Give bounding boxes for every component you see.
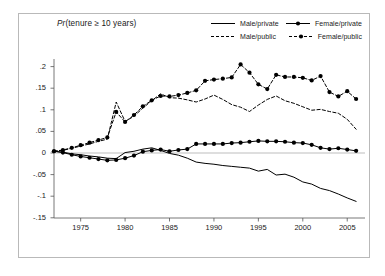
- series-marker-female_public: [87, 141, 91, 145]
- x-tick-label: 1975: [66, 223, 96, 232]
- series-marker-female_public: [345, 89, 349, 93]
- series-marker-female_private: [247, 140, 251, 144]
- series-marker-female_public: [167, 94, 171, 98]
- series-marker-female_private: [185, 147, 189, 151]
- series-marker-female_public: [212, 77, 216, 81]
- chart-figure: Pr(tenure ≥ 10 years) Male/private Femal…: [0, 0, 385, 276]
- x-tick-label: 1985: [155, 223, 185, 232]
- series-marker-female_private: [203, 142, 207, 146]
- series-marker-female_public: [247, 71, 251, 75]
- y-tick-label: .05: [24, 126, 46, 135]
- series-marker-female_private: [87, 156, 91, 160]
- series-marker-female_private: [70, 153, 74, 157]
- series-marker-female_private: [354, 149, 358, 153]
- series-marker-female_public: [123, 120, 127, 124]
- series-marker-female_public: [141, 104, 145, 108]
- series-marker-female_private: [212, 142, 216, 146]
- series-marker-female_public: [185, 91, 189, 95]
- series-marker-female_private: [283, 140, 287, 144]
- series-marker-female_public: [265, 87, 269, 91]
- series-marker-female_public: [70, 146, 74, 150]
- series-marker-female_private: [159, 147, 163, 151]
- series-marker-female_public: [159, 94, 163, 98]
- series-marker-female_private: [167, 149, 171, 153]
- series-marker-female_private: [221, 142, 225, 146]
- series-marker-female_private: [105, 158, 109, 162]
- y-tick-label: -.15: [24, 213, 46, 222]
- series-marker-female_public: [336, 94, 340, 98]
- series-marker-female_public: [301, 76, 305, 80]
- series-marker-female_private: [301, 141, 305, 145]
- series-marker-female_private: [132, 153, 136, 157]
- series-marker-female_public: [274, 73, 278, 77]
- series-marker-female_private: [230, 141, 234, 145]
- series-marker-female_public: [61, 148, 65, 152]
- series-marker-female_public: [256, 82, 260, 86]
- series-marker-female_private: [114, 158, 118, 162]
- series-marker-female_private: [123, 156, 127, 160]
- series-marker-female_private: [79, 154, 83, 158]
- series-marker-female_private: [318, 146, 322, 150]
- series-marker-female_private: [176, 148, 180, 152]
- series-marker-female_public: [105, 135, 109, 139]
- series-marker-female_private: [265, 139, 269, 143]
- series-marker-female_public: [354, 97, 358, 101]
- y-tick-label: -.1: [24, 191, 46, 200]
- series-marker-female_private: [239, 141, 243, 145]
- y-tick-label: -.05: [24, 170, 46, 179]
- series-marker-female_public: [96, 138, 100, 142]
- series-marker-female_public: [221, 77, 225, 81]
- y-tick-label: .1: [24, 105, 46, 114]
- x-tick-label: 1990: [199, 223, 229, 232]
- series-marker-female_private: [336, 146, 340, 150]
- x-tick-label: 2000: [288, 223, 318, 232]
- series-marker-female_private: [292, 141, 296, 145]
- series-marker-female_private: [150, 148, 154, 152]
- y-tick-label: .15: [24, 83, 46, 92]
- series-marker-female_private: [256, 139, 260, 143]
- series-marker-female_private: [310, 143, 314, 147]
- series-marker-female_public: [150, 98, 154, 102]
- y-tick-label: .2: [24, 62, 46, 71]
- x-tick-label: 1995: [243, 223, 273, 232]
- series-marker-female_public: [52, 149, 56, 153]
- series-marker-female_public: [194, 88, 198, 92]
- y-tick-label: 0: [24, 148, 46, 157]
- series-marker-female_public: [283, 75, 287, 79]
- series-marker-female_public: [203, 79, 207, 83]
- x-tick-label: 2005: [332, 223, 362, 232]
- plot-area: [0, 0, 385, 276]
- series-marker-female_private: [141, 150, 145, 154]
- series-marker-female_private: [274, 139, 278, 143]
- series-marker-female_private: [96, 157, 100, 161]
- series-marker-female_public: [239, 62, 243, 66]
- series-marker-female_private: [194, 142, 198, 146]
- series-marker-female_public: [292, 75, 296, 79]
- series-marker-female_public: [310, 78, 314, 82]
- series-marker-female_public: [132, 113, 136, 117]
- series-marker-female_public: [230, 75, 234, 79]
- series-marker-female_public: [79, 143, 83, 147]
- series-marker-female_private: [345, 147, 349, 151]
- series-marker-female_public: [114, 110, 118, 114]
- x-tick-label: 1980: [110, 223, 140, 232]
- series-marker-female_public: [318, 74, 322, 78]
- series-marker-female_public: [176, 93, 180, 97]
- series-marker-female_public: [327, 90, 331, 94]
- series-line-male_private: [54, 148, 356, 202]
- series-marker-female_private: [327, 147, 331, 151]
